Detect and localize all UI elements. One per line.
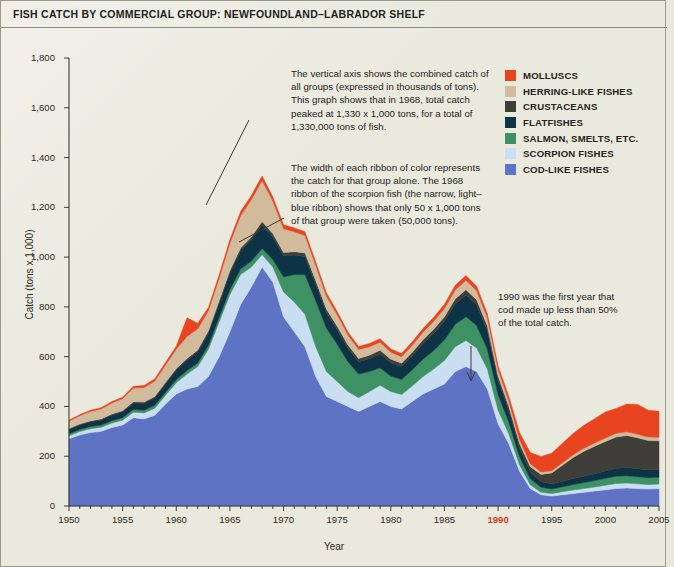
legend-item-label: SALMON, SMELTS, ETC.: [523, 133, 638, 144]
legend-swatch-icon: [505, 86, 516, 97]
x-axis-tick-label: 1960: [156, 514, 196, 525]
y-axis-tick-label: 800: [9, 301, 55, 312]
legend-item[interactable]: SALMON, SMELTS, ETC.: [505, 130, 665, 146]
chart-legend: MOLLUSCSHERRING-LIKE FISHESCRUSTACEANSFL…: [505, 68, 665, 177]
legend-swatch-icon: [505, 133, 516, 144]
leader-line-1: [206, 120, 249, 205]
legend-item-label: CRUSTACEANS: [523, 101, 598, 112]
x-axis-tick-label: 1955: [103, 514, 143, 525]
legend-item[interactable]: MOLLUSCS: [505, 68, 665, 84]
y-axis-tick-label: 1,200: [9, 201, 55, 212]
legend-swatch-icon: [505, 148, 516, 159]
legend-swatch-icon: [505, 117, 516, 128]
legend-item[interactable]: SCORPION FISHES: [505, 146, 665, 162]
y-axis-tick-label: 400: [9, 400, 55, 411]
y-axis-tick-label: 1,800: [9, 52, 55, 63]
legend-item[interactable]: HERRING-LIKE FISHES: [505, 84, 665, 100]
y-axis-tick-label: 0: [9, 500, 55, 511]
x-axis-tick-label: 1975: [317, 514, 357, 525]
x-axis-tick-label: 2005: [639, 514, 674, 525]
annotation-vertical-axis: The vertical axis shows the combined cat…: [291, 67, 496, 133]
x-axis-tick-label: 1985: [424, 514, 464, 525]
legend-item[interactable]: CRUSTACEANS: [505, 99, 665, 115]
x-axis-label: Year: [1, 541, 667, 552]
x-axis-tick-label: 1970: [264, 514, 304, 525]
legend-item-label: SCORPION FISHES: [523, 148, 614, 159]
x-axis-tick-label: 1980: [371, 514, 411, 525]
y-axis-tick-label: 1,600: [9, 102, 55, 113]
y-axis-tick-label: 600: [9, 351, 55, 362]
y-axis-tick-label: 1,400: [9, 152, 55, 163]
legend-item[interactable]: FLATFISHES: [505, 115, 665, 131]
annotation-1990-cod: 1990 was the first year that cod made up…: [498, 290, 618, 330]
annotation-ribbon-width: The width of each ribbon of color repres…: [291, 161, 491, 227]
x-axis-tick-label: 1965: [210, 514, 250, 525]
legend-swatch-icon: [505, 101, 516, 112]
legend-swatch-icon: [505, 70, 516, 81]
page-title: FISH CATCH BY COMMERCIAL GROUP: NEWFOUND…: [13, 8, 425, 20]
y-axis-tick-label: 200: [9, 450, 55, 461]
legend-item-label: MOLLUSCS: [523, 70, 578, 81]
legend-item-label: COD-LIKE FISHES: [523, 164, 609, 175]
x-axis-tick-label: 1990: [478, 514, 518, 525]
legend-item[interactable]: COD-LIKE FISHES: [505, 162, 665, 178]
y-axis-tick-label: 1,000: [9, 251, 55, 262]
y-axis-label: Catch (tons x 1,000): [24, 200, 35, 350]
x-axis-tick-label: 1995: [532, 514, 572, 525]
x-axis-tick-label: 1950: [49, 514, 89, 525]
legend-item-label: FLATFISHES: [523, 117, 583, 128]
x-axis-tick-label: 2000: [585, 514, 625, 525]
legend-swatch-icon: [505, 164, 516, 175]
legend-item-label: HERRING-LIKE FISHES: [523, 86, 632, 97]
title-bar: FISH CATCH BY COMMERCIAL GROUP: NEWFOUND…: [1, 1, 667, 28]
